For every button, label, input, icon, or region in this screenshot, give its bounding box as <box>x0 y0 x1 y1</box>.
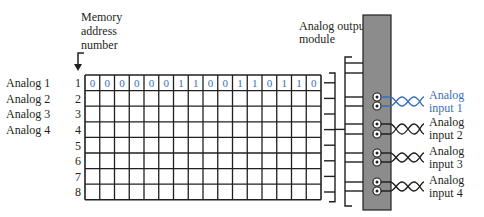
input-label-line1: Analog <box>429 173 464 187</box>
down-arrow-icon <box>74 53 84 71</box>
row-name: Analog 3 <box>6 107 50 121</box>
input-label-line2: input 1 <box>429 101 463 115</box>
row-labels: Analog 11Analog 22Analog 33Analog 445678 <box>6 76 81 199</box>
bit-cell: 0 <box>104 77 110 89</box>
row-address: 7 <box>75 170 81 184</box>
analog-inputs: Analoginput 1Analoginput 2Analoginput 3A… <box>381 88 464 200</box>
memory-grid: 0000001100110110 <box>85 75 321 200</box>
row-address: 2 <box>75 92 81 106</box>
bit-cell: 0 <box>134 77 140 89</box>
row-address: 6 <box>75 154 81 168</box>
row-address: 4 <box>75 123 81 137</box>
row-name: Analog 2 <box>6 92 50 106</box>
bit-cell: 0 <box>119 77 125 89</box>
module-label-line2: module <box>299 32 335 46</box>
input-label-line2: input 3 <box>429 157 463 171</box>
bit-cell: 1 <box>237 77 243 89</box>
row-name: Analog 1 <box>6 76 50 90</box>
bit-cell: 0 <box>311 77 317 89</box>
row-address: 1 <box>75 76 81 90</box>
bit-cell: 0 <box>90 77 96 89</box>
row-address: 8 <box>75 185 81 199</box>
bit-cell: 1 <box>193 77 199 89</box>
module-label-line1: Analog output <box>299 19 369 33</box>
bit-cell: 0 <box>149 77 155 89</box>
input-label-line2: input 4 <box>429 186 463 200</box>
wiring <box>324 57 363 206</box>
row-address: 5 <box>75 139 81 153</box>
input-label-line1: Analog <box>429 88 464 102</box>
bit-cell: 0 <box>267 77 273 89</box>
bit-cell: 1 <box>252 77 258 89</box>
input-label-line1: Analog <box>429 115 464 129</box>
memory-address-label: Memory address number <box>81 10 122 52</box>
row-name: Analog 4 <box>6 123 50 137</box>
bit-cell: 1 <box>296 77 302 89</box>
row-address: 3 <box>75 107 81 121</box>
bit-cell: 0 <box>222 77 228 89</box>
bit-cell: 0 <box>163 77 169 89</box>
bit-cell: 1 <box>281 77 287 89</box>
memory-label-line2: address <box>81 24 117 38</box>
input-label-line2: input 2 <box>429 128 463 142</box>
input-label-line1: Analog <box>429 144 464 158</box>
memory-label-line3: number <box>81 38 118 52</box>
bit-cell: 0 <box>208 77 214 89</box>
memory-label-line1: Memory <box>81 10 122 24</box>
analog-output-diagram: Memory address number Analog output modu… <box>0 0 484 217</box>
bit-cell: 1 <box>178 77 184 89</box>
